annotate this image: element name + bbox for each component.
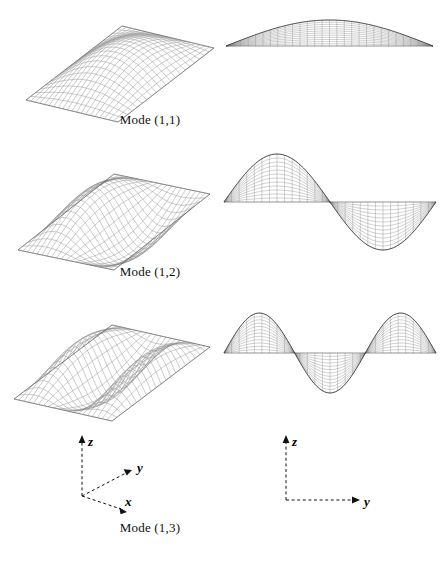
- coordinate-triad-2d: z y: [268, 428, 398, 518]
- mode-row-1-2: Mode (1,2): [0, 140, 443, 295]
- axis-z-arrowhead-2d: [283, 435, 290, 443]
- axis-x-line-3d: [82, 496, 121, 509]
- mode-1-2-surface-3d: [2, 140, 222, 270]
- mode-row-1-1: Mode (1,1): [0, 0, 443, 140]
- mode-1-2-projection-2d: [218, 140, 443, 270]
- axis-x-label-3d: x: [124, 494, 132, 509]
- coordinate-triad-3d: z y x: [55, 428, 175, 518]
- axis-y-arrowhead-3d: [124, 469, 132, 475]
- mode-1-3-surface-3d: [2, 295, 222, 420]
- axis-y-line-3d: [82, 473, 126, 496]
- axis-y-arrowhead-2d: [352, 497, 360, 504]
- mode-1-3-caption: Mode (1,3): [0, 520, 300, 536]
- mode-1-1-projection-2d: [218, 0, 443, 120]
- axis-y-label-2d: y: [362, 494, 370, 509]
- mode-shapes-figure: Mode (1,1) Mode (1,2) Mode (1,3): [0, 0, 443, 562]
- mode-1-2-caption: Mode (1,2): [0, 264, 300, 280]
- axis-z-label-2d: z: [291, 434, 298, 449]
- mode-1-1-surface-3d: [2, 0, 222, 120]
- mode-1-1-caption: Mode (1,1): [0, 112, 300, 128]
- axis-z-arrowhead-3d: [79, 435, 86, 443]
- axis-z-label-3d: z: [87, 434, 94, 449]
- mode-1-3-projection-2d: [218, 295, 443, 420]
- axis-y-label-3d: y: [135, 460, 143, 475]
